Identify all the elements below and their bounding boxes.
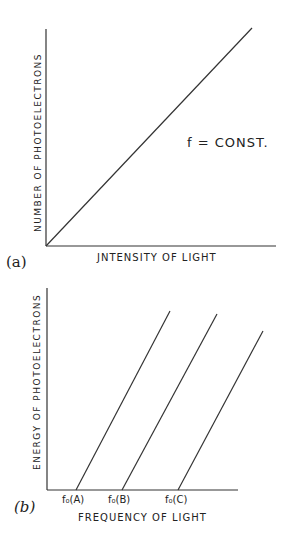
b-tick-c: f₀(C) <box>165 494 187 505</box>
b-tick-b: f₀(B) <box>108 494 130 505</box>
b-x-label: FREQUENCY OF LIGHT <box>78 512 207 523</box>
a-y-label: NUMBER OF PHOTOELECTRONS <box>33 53 43 232</box>
b-panel-label: (b) <box>14 498 35 516</box>
b-line-a <box>76 311 170 490</box>
a-x-label: JNTENSITY OF LIGHT <box>97 252 217 263</box>
b-line-b <box>122 314 217 490</box>
chart-canvas <box>0 0 293 542</box>
a-panel-label: (a) <box>6 253 27 271</box>
a-annotation: f = CONST. <box>187 135 269 150</box>
b-y-label: ENERGY OF PHOTOELECTRONS <box>32 294 42 470</box>
b-tick-a: f₀(A) <box>62 494 84 505</box>
b-line-c <box>178 331 263 490</box>
